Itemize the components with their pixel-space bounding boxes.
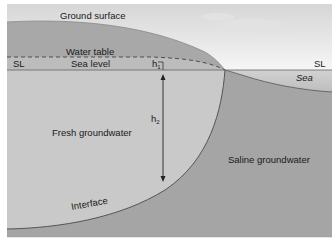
ground-surface-label: Ground surface: [60, 11, 125, 21]
sea-level-label: Sea level: [71, 59, 110, 69]
sl-left-label: SL: [13, 59, 25, 69]
saline-groundwater-label: Saline groundwater: [228, 155, 310, 165]
diagram-svg: [0, 0, 335, 244]
h1-sub: 1: [157, 64, 160, 70]
h2-sub: 2: [156, 119, 159, 125]
fresh-groundwater-label: Fresh groundwater: [52, 128, 132, 138]
diagram-canvas: Ground surface Water table SL Sea level …: [0, 0, 335, 244]
h2-label: h2: [151, 114, 160, 124]
h1-label: h1: [152, 59, 161, 69]
sl-right-label: SL: [314, 59, 326, 69]
water-table-label: Water table: [66, 47, 114, 57]
sea-label: Sea: [296, 73, 313, 83]
